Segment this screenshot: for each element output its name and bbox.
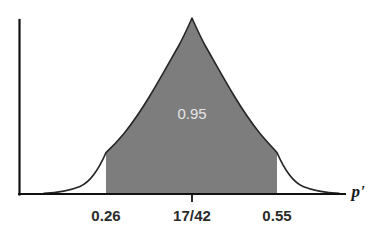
x-tick-label-upper-bound: 0.55 [262, 207, 292, 224]
x-tick-label-lower-bound: 0.26 [91, 207, 121, 224]
normal-distribution-figure: 0.95 0.26 17/42 0.55 p' [0, 0, 385, 233]
x-axis-label: p' [351, 182, 364, 202]
shaded-area-value-label: 0.95 [177, 105, 206, 122]
x-tick-label-mean: 17/42 [173, 207, 211, 224]
